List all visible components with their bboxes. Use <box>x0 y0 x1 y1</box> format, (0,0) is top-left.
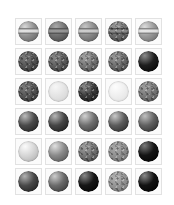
sphere-rim-shadow <box>108 51 129 72</box>
sphere-thumbnail[interactable] <box>105 138 132 165</box>
sphere-thumbnail[interactable] <box>135 108 162 135</box>
sphere-thumbnail[interactable] <box>135 168 162 195</box>
grid-cell[interactable] <box>73 166 103 196</box>
sphere-rim-shadow <box>108 111 129 132</box>
sphere-render <box>18 21 39 42</box>
sphere-render <box>78 81 99 102</box>
sphere-rim-shadow <box>78 171 99 192</box>
sphere-render <box>48 51 69 72</box>
grid-cell[interactable] <box>13 76 43 106</box>
grid-cell[interactable] <box>13 106 43 136</box>
sphere-thumbnail[interactable] <box>45 18 72 45</box>
sphere-rim-shadow <box>18 111 39 132</box>
sphere-thumbnail[interactable] <box>105 18 132 45</box>
sphere-thumbnail[interactable] <box>105 108 132 135</box>
sphere-thumbnail[interactable] <box>135 78 162 105</box>
sphere-render <box>108 111 129 132</box>
sphere-thumbnail[interactable] <box>75 138 102 165</box>
grid-cell[interactable] <box>73 16 103 46</box>
grid-cell[interactable] <box>133 16 163 46</box>
grid-cell[interactable] <box>43 166 73 196</box>
sphere-thumbnail[interactable] <box>135 138 162 165</box>
grid-cell[interactable] <box>103 46 133 76</box>
grid-cell[interactable] <box>13 166 43 196</box>
sphere-render <box>108 21 129 42</box>
sphere-rim-shadow <box>18 141 39 162</box>
sphere-render <box>108 51 129 72</box>
sphere-thumbnail[interactable] <box>75 78 102 105</box>
sphere-thumbnail[interactable] <box>75 18 102 45</box>
sphere-render <box>48 141 69 162</box>
sphere-render <box>78 51 99 72</box>
sphere-rim-shadow <box>138 171 159 192</box>
grid-cell[interactable] <box>43 76 73 106</box>
sphere-thumbnail[interactable] <box>45 138 72 165</box>
sphere-thumbnail[interactable] <box>75 108 102 135</box>
sphere-thumbnail[interactable] <box>45 78 72 105</box>
sphere-rim-shadow <box>138 141 159 162</box>
sphere-render <box>138 111 159 132</box>
sphere-render <box>78 111 99 132</box>
grid-cell[interactable] <box>73 136 103 166</box>
sphere-thumbnail[interactable] <box>75 48 102 75</box>
sphere-thumbnail[interactable] <box>135 48 162 75</box>
sphere-render <box>138 21 159 42</box>
sphere-render <box>78 141 99 162</box>
sphere-thumbnail[interactable] <box>105 168 132 195</box>
sphere-rim-shadow <box>138 51 159 72</box>
sphere-thumbnail[interactable] <box>75 168 102 195</box>
sphere-rim-shadow <box>78 51 99 72</box>
grid-cell[interactable] <box>43 106 73 136</box>
sphere-render <box>18 141 39 162</box>
grid-cell[interactable] <box>133 46 163 76</box>
thumbnail-grid <box>13 16 163 196</box>
sphere-rim-shadow <box>18 171 39 192</box>
grid-cell[interactable] <box>133 106 163 136</box>
sphere-thumbnail[interactable] <box>15 48 42 75</box>
sphere-thumbnail[interactable] <box>15 168 42 195</box>
sphere-render <box>18 81 39 102</box>
grid-cell[interactable] <box>13 136 43 166</box>
grid-cell[interactable] <box>13 16 43 46</box>
sphere-render <box>108 81 129 102</box>
grid-cell[interactable] <box>103 166 133 196</box>
sphere-rim-shadow <box>78 21 99 42</box>
grid-cell[interactable] <box>103 136 133 166</box>
sphere-thumbnail[interactable] <box>135 18 162 45</box>
sphere-rim-shadow <box>18 81 39 102</box>
sphere-rim-shadow <box>48 81 69 102</box>
grid-cell[interactable] <box>73 106 103 136</box>
sphere-rim-shadow <box>18 21 39 42</box>
sphere-rim-shadow <box>78 81 99 102</box>
sphere-thumbnail[interactable] <box>105 78 132 105</box>
sphere-thumbnail[interactable] <box>45 168 72 195</box>
grid-cell[interactable] <box>103 106 133 136</box>
sphere-thumbnail[interactable] <box>105 48 132 75</box>
grid-cell[interactable] <box>103 16 133 46</box>
grid-cell[interactable] <box>133 76 163 106</box>
grid-cell[interactable] <box>43 136 73 166</box>
grid-cell[interactable] <box>73 46 103 76</box>
sphere-render <box>138 51 159 72</box>
sphere-thumbnail[interactable] <box>45 48 72 75</box>
sphere-thumbnail[interactable] <box>15 78 42 105</box>
grid-cell[interactable] <box>103 76 133 106</box>
sphere-thumbnail[interactable] <box>15 108 42 135</box>
sphere-render <box>48 21 69 42</box>
grid-cell[interactable] <box>133 136 163 166</box>
sphere-render <box>108 171 129 192</box>
grid-cell[interactable] <box>133 166 163 196</box>
sphere-rim-shadow <box>18 51 39 72</box>
sphere-thumbnail[interactable] <box>45 108 72 135</box>
grid-cell[interactable] <box>43 46 73 76</box>
sphere-rim-shadow <box>108 171 129 192</box>
sphere-rim-shadow <box>108 21 129 42</box>
grid-cell[interactable] <box>43 16 73 46</box>
sphere-rim-shadow <box>48 141 69 162</box>
grid-cell[interactable] <box>73 76 103 106</box>
grid-cell[interactable] <box>13 46 43 76</box>
sphere-thumbnail[interactable] <box>15 18 42 45</box>
sphere-thumbnail[interactable] <box>15 138 42 165</box>
sphere-render <box>108 141 129 162</box>
sphere-render <box>18 171 39 192</box>
